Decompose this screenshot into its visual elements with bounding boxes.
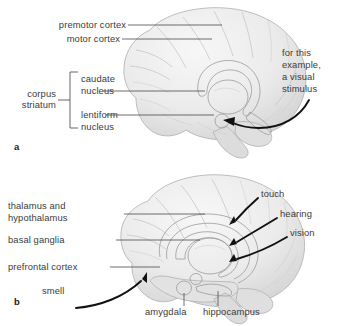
label-caudate-nucleus: nucleus <box>81 85 114 96</box>
label-thalamus-line2: hypothalamus <box>8 212 68 223</box>
cerebrum-shape-a <box>124 8 306 158</box>
label-vision: vision <box>290 227 315 238</box>
label-basal-ganglia: basal ganglia <box>8 234 65 245</box>
label-hearing: hearing <box>280 208 312 219</box>
label-lentiform: lentiform <box>81 109 118 120</box>
label-striatum: striatum <box>4 99 56 110</box>
brain-anatomy-figure: premotor cortex motor cortex corpus stri… <box>0 0 341 326</box>
label-touch: touch <box>261 188 284 199</box>
label-caudate: caudate <box>81 73 115 84</box>
corpus-striatum-bracket <box>58 72 78 128</box>
label-thalamus-line1: thalamus and <box>8 200 66 211</box>
label-corpus: corpus <box>4 88 56 99</box>
label-lentiform-nucleus: nucleus <box>81 121 114 132</box>
label-stimulus-line4: stimulus <box>282 83 317 94</box>
label-motor-cortex: motor cortex <box>28 33 120 44</box>
panel-b: thalamus and hypothalamus basal ganglia … <box>0 163 341 326</box>
label-smell: smell <box>42 285 64 296</box>
label-premotor-cortex: premotor cortex <box>28 19 126 30</box>
label-stimulus-line1: for this <box>282 47 311 58</box>
panel-b-letter: b <box>14 296 20 307</box>
label-stimulus-line3: a visual <box>282 71 315 82</box>
panel-a: premotor cortex motor cortex corpus stri… <box>0 0 341 163</box>
label-hippocampus: hippocampus <box>203 306 260 317</box>
panel-a-letter: a <box>14 141 19 152</box>
label-stimulus-line2: example, <box>282 59 321 70</box>
label-prefrontal-cortex: prefrontal cortex <box>8 261 77 272</box>
label-amygdala: amygdala <box>145 306 186 317</box>
